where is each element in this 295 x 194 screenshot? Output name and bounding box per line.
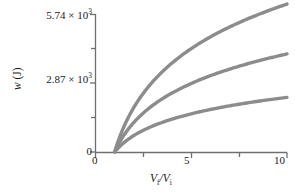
y-axis-unit: (J) [11,67,23,82]
y-axis-title: w (J) [12,57,24,101]
x-axis-title: Vf/Vi [150,173,172,187]
y-tick-mid-exponent: 3 [88,71,92,80]
y-tick-label-mid: 2.87 × 103 [46,72,92,85]
x-axis-ticks [96,153,288,159]
series-middle-curve [115,54,287,152]
x-axis-denominator-subscript: i [170,178,172,187]
series-lower-curve [115,97,287,152]
plot-canvas [0,0,295,194]
chart-figure: 5.74 × 103 2.87 × 103 0 0 5 10 w (J) Vf/… [0,0,295,194]
x-tick-label-5: 5 [184,155,190,166]
y-tick-label-top: 5.74 × 103 [46,8,92,21]
x-tick-label-10: 10 [274,155,285,166]
data-curves [115,4,287,152]
y-tick-top-exponent: 3 [88,7,92,16]
x-tick-label-0: 0 [92,155,98,166]
